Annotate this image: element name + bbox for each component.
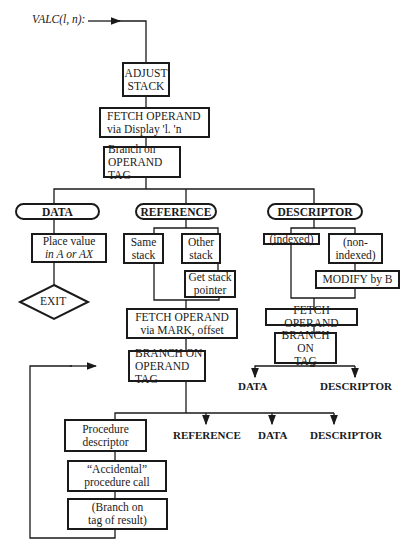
procedure-descriptor-box: Procedure descriptor: [64, 419, 147, 452]
out-data-label: DATA: [258, 429, 288, 441]
accidental-call-line2: procedure call: [84, 476, 149, 489]
place-value-line1: Place value: [43, 235, 96, 248]
branch-tag-result-line2: tag of result): [88, 514, 147, 527]
desc-out-descriptor-label: DESCRIPTOR: [320, 380, 392, 392]
branch-tag-desc-line2: TAG: [294, 355, 317, 368]
fetch-mark-line1: FETCH OPERAND: [135, 311, 229, 324]
place-value-box: Place value in A or AX: [31, 233, 107, 263]
branch-operand-tag-box: Branch on OPERAND TAG: [103, 146, 181, 178]
branch-on-tag-desc-box: BRANCH ON TAG: [274, 332, 337, 364]
entry-label: VALC(l, n):: [32, 13, 85, 25]
branch-tag-desc-line1: BRANCH ON: [276, 329, 335, 355]
branch-tag-result-line1: (Branch on: [92, 501, 143, 514]
non-indexed-line2: indexed): [335, 249, 375, 262]
desc-out-data-label: DATA: [238, 380, 268, 392]
branch2-line2: OPERAND TAG: [135, 360, 204, 386]
adjust-stack-line1: ADJUST: [125, 67, 168, 80]
adjust-stack-box: ADJUST STACK: [122, 62, 170, 97]
non-indexed-line1: (non-: [343, 236, 368, 249]
accidental-call-line1: “Accidental”: [87, 463, 147, 476]
fetch-operand-desc-box: FETCH OPERAND: [265, 308, 358, 326]
indexed-box: (indexed): [263, 233, 320, 245]
get-stack-pointer-line1: Get stack: [188, 271, 231, 284]
other-stack-box: Other stack: [181, 233, 221, 264]
procedure-descriptor-line2: descriptor: [83, 436, 129, 449]
other-stack-line1: Other: [188, 236, 214, 249]
other-stack-line2: stack: [189, 249, 213, 262]
same-stack-line2: stack: [132, 249, 156, 262]
get-stack-pointer-box: Get stack pointer: [184, 270, 236, 298]
modify-by-b-box: MODIFY by B: [315, 270, 400, 289]
adjust-stack-line2: STACK: [128, 80, 165, 93]
fetch-display-line1: FETCH OPERAND: [107, 110, 201, 123]
descriptor-case-pill: DESCRIPTOR: [267, 203, 363, 220]
fetch-operand-display-box: FETCH OPERAND via Display 'l. 'n: [99, 107, 210, 138]
branch-tag-result-box: (Branch on tag of result): [67, 498, 168, 530]
fetch-display-line2: via Display 'l. 'n: [107, 123, 181, 136]
branch-line1: Branch on: [108, 143, 156, 156]
out-reference-label: REFERENCE: [173, 429, 241, 441]
same-stack-box: Same stack: [123, 233, 164, 264]
branch-operand-tag-2-box: BRANCH ON OPERAND TAG: [128, 350, 206, 382]
place-value-line2: in A or AX: [45, 248, 93, 261]
out-descriptor-label: DESCRIPTOR: [310, 429, 382, 441]
exit-label: EXIT: [40, 295, 66, 307]
get-stack-pointer-line2: pointer: [194, 284, 227, 297]
non-indexed-box: (non- indexed): [328, 233, 383, 264]
same-stack-line1: Same: [131, 236, 157, 249]
branch2-line1: BRANCH ON: [135, 347, 202, 360]
data-case-pill: DATA: [15, 203, 100, 220]
procedure-descriptor-line1: Procedure: [82, 423, 129, 436]
fetch-mark-line2: via MARK, offset: [140, 324, 223, 337]
fetch-operand-mark-box: FETCH OPERAND via MARK, offset: [126, 308, 238, 339]
reference-case-pill: REFERENCE: [135, 203, 217, 220]
branch-line2: OPERAND TAG: [108, 156, 179, 182]
accidental-call-box: “Accidental” procedure call: [67, 460, 167, 492]
